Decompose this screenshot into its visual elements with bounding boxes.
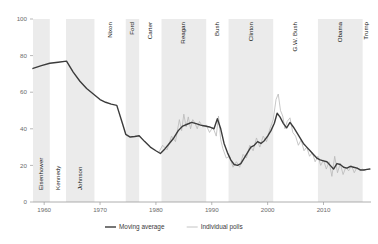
- y-tick-label: 40: [20, 125, 27, 132]
- x-axis: 196019701980199020002010: [33, 202, 371, 213]
- admin-label-ford: Ford: [128, 21, 135, 34]
- y-axis: 020406080100: [17, 15, 33, 205]
- admin-label-bush: Bush: [213, 21, 220, 36]
- admin-label-obama: Obama: [336, 21, 343, 42]
- admin-label-trump: Trump: [362, 21, 369, 39]
- admin-label-eisenhower: Eisenhower: [37, 158, 44, 190]
- admin-band-ford: [126, 19, 139, 202]
- admin-band-clinton: [229, 19, 274, 202]
- x-tick-label: 1980: [149, 206, 163, 213]
- x-tick-label: 2000: [261, 206, 275, 213]
- legend-label-moving-average: Moving average: [119, 223, 165, 231]
- y-tick-label: 0: [24, 198, 28, 205]
- admin-band-reagan: [161, 19, 206, 202]
- x-tick-label: 1960: [37, 206, 51, 213]
- y-tick-label: 80: [20, 52, 27, 59]
- admin-label-nixon: Nixon: [106, 21, 113, 37]
- admin-label-g-w-bush: G.W. Bush: [291, 21, 298, 51]
- chart-container: EisenhowerKennedyJohnsonNixonFordCarterR…: [0, 0, 378, 244]
- y-tick-label: 100: [17, 15, 28, 22]
- admin-label-clinton: Clinton: [247, 21, 254, 41]
- x-tick-label: 1970: [93, 206, 107, 213]
- legend-label-individual-polls: Individual polls: [201, 223, 243, 231]
- poll-trend-chart: EisenhowerKennedyJohnsonNixonFordCarterR…: [0, 0, 378, 244]
- admin-label-reagan: Reagan: [179, 21, 186, 43]
- admin-band-obama: [318, 19, 363, 202]
- x-tick-label: 2010: [317, 206, 331, 213]
- y-tick-label: 20: [20, 162, 27, 169]
- y-tick-label: 60: [20, 88, 27, 95]
- admin-label-carter: Carter: [146, 22, 153, 39]
- chart-legend: Moving averageIndividual polls: [105, 223, 243, 231]
- admin-label-johnson: Johnson: [76, 166, 83, 190]
- admin-label-kennedy: Kennedy: [54, 165, 61, 190]
- x-tick-label: 1990: [205, 206, 219, 213]
